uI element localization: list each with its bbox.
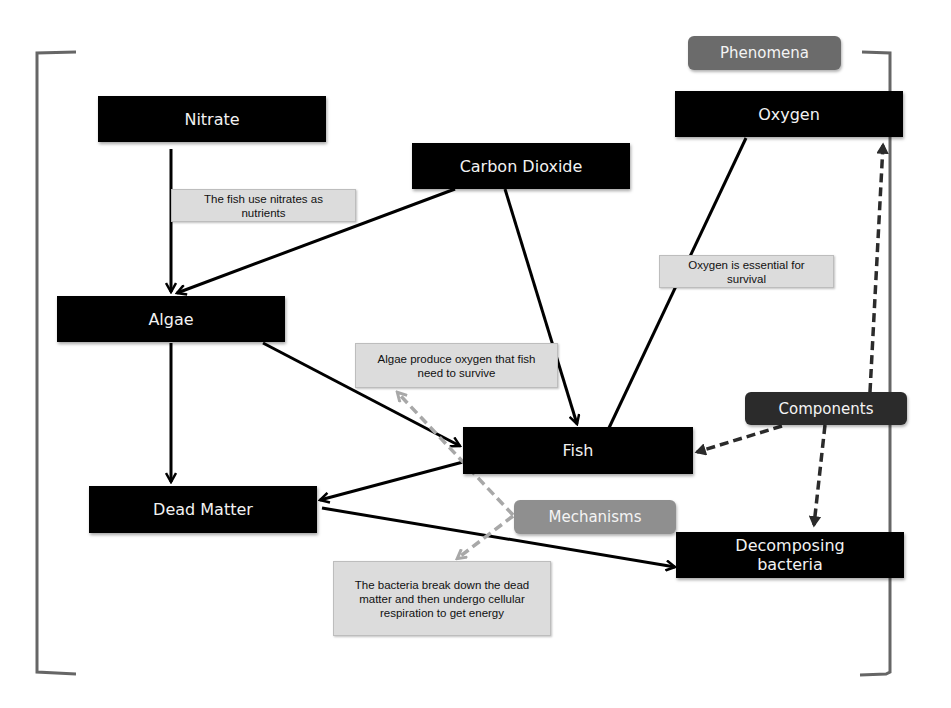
left-bracket bbox=[37, 52, 76, 674]
note-bacteria: The bacteria break down the dead matter … bbox=[333, 561, 551, 636]
components-tag: Components bbox=[745, 392, 907, 425]
edge-fish-deadmatter bbox=[320, 462, 463, 500]
right-bracket bbox=[860, 52, 890, 675]
node-fish: Fish bbox=[463, 427, 693, 474]
note-algae-text: Algae produce oxygen that fish need to s… bbox=[372, 352, 542, 380]
phenomena-label: Phenomena bbox=[720, 44, 809, 62]
node-fish-label: Fish bbox=[563, 441, 594, 460]
node-oxygen: Oxygen bbox=[675, 91, 903, 137]
note-oxygen-text: Oxygen is essential for survival bbox=[677, 258, 817, 286]
components-label: Components bbox=[779, 400, 874, 418]
node-nitrate: Nitrate bbox=[98, 96, 326, 142]
node-decomposing-bacteria-label: Decomposing bacteria bbox=[720, 536, 860, 574]
node-dead-matter-label: Dead Matter bbox=[153, 500, 253, 519]
note-oxygen: Oxygen is essential for survival bbox=[659, 255, 834, 288]
edge-mechanisms-bacteria-note bbox=[458, 516, 513, 558]
node-algae-label: Algae bbox=[148, 310, 193, 329]
edge-co2-fish bbox=[505, 189, 577, 424]
node-carbon-dioxide: Carbon Dioxide bbox=[412, 143, 630, 189]
note-algae: Algae produce oxygen that fish need to s… bbox=[355, 343, 558, 388]
node-decomposing-bacteria: Decomposing bacteria bbox=[676, 532, 904, 578]
mechanisms-tag: Mechanisms bbox=[514, 500, 676, 534]
mechanisms-label: Mechanisms bbox=[548, 508, 641, 526]
note-nitrate-text: The fish use nitrates as nutrients bbox=[189, 192, 339, 220]
concept-map: Phenomena Components Mechanisms Nitrate … bbox=[0, 0, 951, 708]
phenomena-tag: Phenomena bbox=[688, 36, 841, 70]
node-oxygen-label: Oxygen bbox=[758, 105, 820, 124]
note-bacteria-text: The bacteria break down the dead matter … bbox=[347, 578, 537, 620]
node-dead-matter: Dead Matter bbox=[89, 486, 317, 533]
node-nitrate-label: Nitrate bbox=[184, 110, 239, 129]
edge-components-oxygen bbox=[870, 145, 883, 392]
edge-components-fish bbox=[697, 426, 782, 452]
node-carbon-dioxide-label: Carbon Dioxide bbox=[460, 157, 583, 176]
edge-components-bacteria bbox=[814, 425, 825, 525]
node-algae: Algae bbox=[57, 296, 285, 342]
note-nitrate: The fish use nitrates as nutrients bbox=[171, 189, 356, 222]
